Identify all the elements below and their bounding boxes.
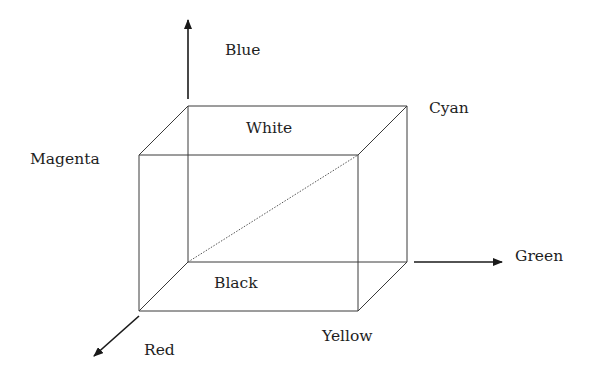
edge-bottom-right-depth	[358, 262, 407, 311]
green-axis-label: Green	[515, 249, 563, 265]
yellow-vertex-label: Yellow	[322, 329, 373, 345]
black-vertex-label: Black	[214, 276, 258, 292]
cube-graphic	[0, 0, 597, 380]
axis-arrows	[94, 20, 502, 356]
red-axis-label: Red	[144, 343, 175, 359]
edge-top-right-depth	[358, 106, 407, 155]
edge-top-left-depth	[139, 106, 188, 155]
edge-bottom-left-depth	[139, 262, 188, 311]
white-vertex-label: White	[246, 121, 292, 137]
blue-axis-label: Blue	[225, 43, 261, 59]
red-axis-arrow	[94, 316, 139, 356]
magenta-vertex-label: Magenta	[30, 152, 100, 168]
gray-diagonal	[188, 155, 358, 262]
cyan-vertex-label: Cyan	[429, 101, 469, 117]
rgb-color-cube-diagram: Blue Green Red White Magenta Cyan Black …	[0, 0, 597, 380]
